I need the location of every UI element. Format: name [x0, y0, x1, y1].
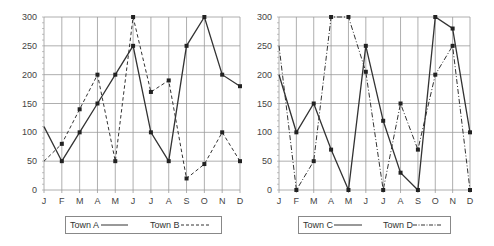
data-point-marker [433, 73, 437, 77]
data-point-marker [78, 107, 82, 111]
data-point-marker [202, 15, 206, 19]
data-point-marker [312, 102, 316, 106]
data-point-marker [113, 159, 117, 163]
x-tick-label: D [237, 196, 244, 206]
y-tick-label: 100 [22, 127, 37, 137]
legend-label-town-d: Town D [383, 220, 414, 230]
data-point-marker [399, 171, 403, 175]
data-point-marker [381, 119, 385, 123]
x-tick-label: A [398, 196, 404, 206]
data-point-marker [60, 142, 64, 146]
x-tick-label: A [94, 196, 100, 206]
data-point-marker [131, 44, 135, 48]
y-tick-label: 200 [22, 70, 37, 80]
data-point-marker [185, 176, 189, 180]
x-tick-label: J [364, 196, 369, 206]
data-point-marker [451, 44, 455, 48]
data-point-marker [60, 159, 64, 163]
data-point-marker [416, 188, 420, 192]
x-tick-label: J [277, 196, 282, 206]
x-tick-label: O [432, 196, 439, 206]
data-point-marker [294, 188, 298, 192]
data-point-marker [202, 162, 206, 166]
x-tick-label: M [76, 196, 84, 206]
legend-town-a-b: Town A Town B [66, 217, 222, 234]
data-point-marker [149, 90, 153, 94]
y-tick-label: 300 [22, 12, 37, 22]
x-tick-label: M [345, 196, 353, 206]
x-tick-label: J [131, 196, 136, 206]
x-tick-label: M [310, 196, 318, 206]
data-point-marker [364, 70, 368, 74]
y-tick-label: 300 [257, 12, 272, 22]
data-point-marker [329, 15, 333, 19]
y-tick-label: 50 [27, 156, 37, 166]
data-point-marker [468, 188, 472, 192]
x-tick-label: O [201, 196, 208, 206]
x-tick-label: S [415, 196, 421, 206]
data-point-marker [78, 130, 82, 134]
data-point-marker [364, 44, 368, 48]
data-point-marker [95, 73, 99, 77]
data-point-marker [346, 15, 350, 19]
y-tick-label: 0 [267, 185, 272, 195]
chart-canvas: 050100150200250300JFMAMJJASOND 050100150… [0, 0, 494, 246]
y-tick-label: 0 [32, 185, 37, 195]
chart-town-a-b: 050100150200250300JFMAMJJASOND [22, 12, 244, 206]
data-point-marker [167, 78, 171, 82]
data-point-marker [451, 27, 455, 31]
y-tick-label: 250 [22, 41, 37, 51]
legend-town-c-d: Town C Town D [299, 217, 451, 234]
x-tick-label: A [328, 196, 334, 206]
data-point-marker [220, 73, 224, 77]
x-tick-label: N [449, 196, 456, 206]
legend-label-town-c: Town C [303, 220, 334, 230]
data-point-marker [381, 188, 385, 192]
data-point-marker [433, 15, 437, 19]
series-line-town-a [44, 17, 240, 161]
x-tick-label: D [467, 196, 474, 206]
x-tick-label: F [59, 196, 65, 206]
data-point-marker [185, 44, 189, 48]
x-tick-label: N [219, 196, 226, 206]
data-point-marker [149, 130, 153, 134]
data-point-marker [346, 188, 350, 192]
data-point-marker [238, 84, 242, 88]
x-tick-label: J [381, 196, 386, 206]
chart-town-c-d: 050100150200250300JFMAMJJASOND [257, 12, 474, 206]
y-tick-label: 100 [257, 127, 272, 137]
data-point-marker [238, 159, 242, 163]
series-line-town-b [44, 17, 240, 179]
data-point-marker [399, 102, 403, 106]
legend-label-town-a: Town A [70, 220, 99, 230]
x-tick-label: A [166, 196, 172, 206]
data-point-marker [312, 159, 316, 163]
data-point-marker [294, 130, 298, 134]
data-point-marker [167, 159, 171, 163]
x-tick-label: S [184, 196, 190, 206]
data-point-marker [113, 73, 117, 77]
y-tick-label: 150 [257, 99, 272, 109]
x-tick-label: M [112, 196, 120, 206]
x-tick-label: J [42, 196, 47, 206]
x-tick-label: F [294, 196, 300, 206]
data-point-marker [95, 102, 99, 106]
x-tick-label: J [149, 196, 154, 206]
y-tick-label: 250 [257, 41, 272, 51]
data-point-marker [416, 148, 420, 152]
y-tick-label: 150 [22, 99, 37, 109]
data-point-marker [220, 130, 224, 134]
data-point-marker [131, 15, 135, 19]
data-point-marker [468, 130, 472, 134]
data-point-marker [329, 148, 333, 152]
y-tick-label: 200 [257, 70, 272, 80]
legend-label-town-b: Town B [150, 220, 180, 230]
y-tick-label: 50 [262, 156, 272, 166]
